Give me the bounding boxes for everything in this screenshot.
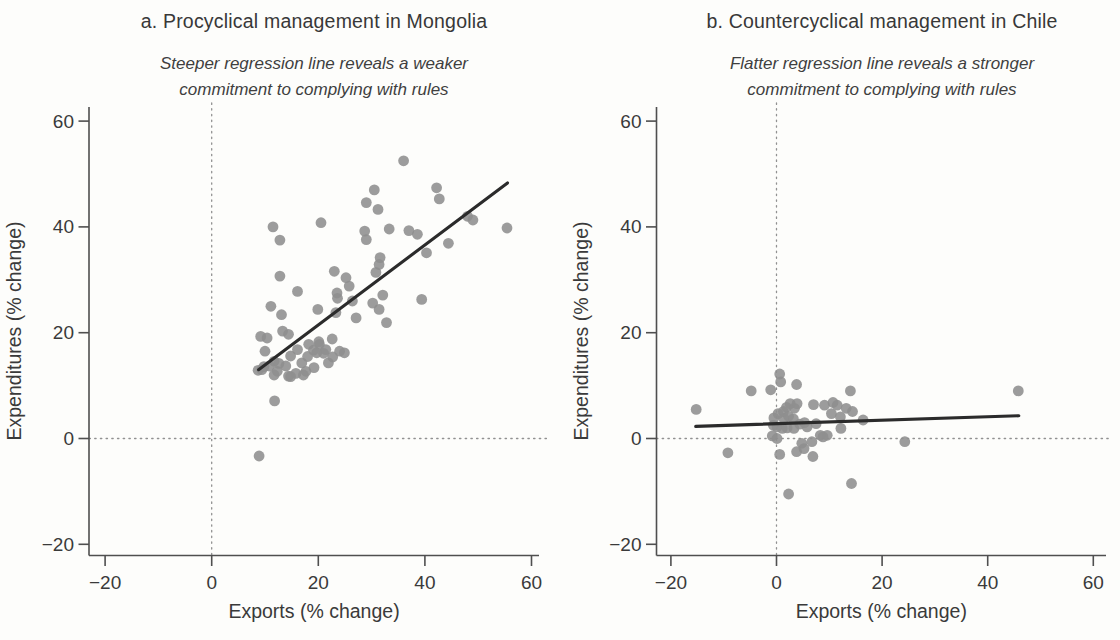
x-tick-label: 40 [977,572,998,593]
data-point [808,451,819,462]
data-point [847,406,858,417]
y-tick-label: 40 [53,216,74,237]
data-point [313,336,324,347]
panel-mongolia: a. Procyclical management in Mongolia St… [0,0,560,640]
data-point [375,252,386,263]
y-tick-label: 60 [620,111,641,132]
y-tick-label: 0 [631,428,642,449]
x-axis-title: Exports (% change) [228,600,399,622]
data-point [275,271,286,282]
data-point [312,304,323,315]
data-point [443,238,454,249]
y-tick-label: 20 [620,322,641,343]
data-point [416,294,427,305]
data-point [381,317,392,328]
data-point [269,370,280,381]
data-point [384,224,395,235]
data-point [775,377,786,388]
data-point [792,398,803,409]
data-point [369,185,380,196]
data-point [260,346,271,357]
data-point [327,334,338,345]
data-point [332,293,343,304]
data-point [292,344,303,355]
data-point [807,436,818,447]
y-axis-title: Expenditures (% change) [570,222,592,441]
x-tick-label: 60 [1083,572,1104,593]
x-axis-title: Exports (% change) [796,600,967,622]
data-point [818,432,829,443]
data-point [373,204,384,215]
scatter-plot-chile: −200204060−200204060Exports (% change)Ex… [560,0,1120,640]
data-point [772,433,783,444]
axes [646,107,1106,566]
data-point [899,436,910,447]
data-point [274,358,285,369]
x-tick-label: 0 [771,572,782,593]
x-tick-label: 40 [414,572,435,593]
data-point [431,182,442,193]
data-point [398,155,409,166]
data-point [318,348,329,359]
scatter-points [691,369,1024,500]
data-point [351,313,362,324]
data-point [808,399,819,410]
data-point [316,217,327,228]
data-point [1013,386,1024,397]
y-tick-label: −20 [42,534,74,555]
zero-reference-lines [657,103,1110,556]
two-panel-scatter-figure: a. Procyclical management in Mongolia St… [0,0,1120,640]
data-point [502,223,513,234]
data-point [361,234,372,245]
data-point [361,197,372,208]
regression-line [696,416,1019,427]
data-point [277,326,288,337]
y-tick-label: −20 [609,534,641,555]
data-point [846,478,857,489]
data-point [774,449,785,460]
data-point [309,362,320,373]
zero-reference-lines [89,103,549,556]
data-point [783,489,794,500]
data-point [254,451,265,462]
data-point [791,446,802,457]
data-point [266,301,277,312]
y-axis-title: Expenditures (% change) [3,222,25,441]
data-point [374,304,385,315]
data-point [285,371,296,382]
data-point [262,333,273,344]
x-tick-label: 20 [872,572,893,593]
data-point [344,281,355,292]
data-point [723,447,734,458]
data-point [845,386,856,397]
data-point [268,222,279,233]
data-point [746,386,757,397]
axes [79,107,540,566]
data-point [468,215,479,226]
data-point [329,266,340,277]
data-point [691,404,702,415]
tick-labels: −200204060−200204060 [609,111,1104,593]
y-tick-label: 60 [53,111,74,132]
data-point [275,235,286,246]
data-point [298,370,309,381]
x-tick-label: 60 [521,572,542,593]
data-point [339,347,350,358]
y-tick-label: 0 [63,428,74,449]
scatter-points [253,155,513,461]
data-point [836,423,847,434]
data-point [269,396,280,407]
x-tick-label: −20 [89,572,121,593]
data-point [292,286,303,297]
x-tick-label: −20 [655,572,687,593]
data-point [412,229,423,240]
panel-chile: b. Countercyclical management in Chile F… [560,0,1120,640]
data-point [791,379,802,390]
data-point [377,290,388,301]
y-tick-label: 20 [53,322,74,343]
data-point [434,194,445,205]
x-tick-label: 20 [308,572,329,593]
data-point [765,384,776,395]
data-point [276,309,287,320]
scatter-plot-mongolia: −200204060−200204060Exports (% change)Ex… [0,0,560,640]
